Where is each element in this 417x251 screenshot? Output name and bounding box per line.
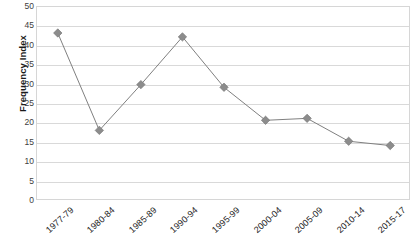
data-point-2005-09: 2005-09: 21.3 <box>303 114 311 122</box>
y-axis-tick-35: 35 <box>8 59 34 69</box>
x-axis-tick-1990-94: 1990-94 <box>168 205 200 235</box>
y-axis-tick-45: 45 <box>8 20 34 30</box>
x-axis-tick-2010-14: 2010-14 <box>335 205 367 235</box>
y-axis-title: Frequency Index <box>17 14 28 134</box>
y-axis-tick-50: 50 <box>8 1 34 11</box>
y-axis-tick-40: 40 <box>8 40 34 50</box>
x-axis-tick-1995-99: 1995-99 <box>210 205 242 235</box>
y-axis-tick-25: 25 <box>8 98 34 108</box>
x-axis-tick-1977-79: 1977-79 <box>44 205 76 235</box>
y-axis-tick-5: 5 <box>8 176 34 186</box>
y-axis-tick-10: 10 <box>8 156 34 166</box>
line-chart: Frequency Index 50454035302520151050 197… <box>0 0 417 251</box>
x-axis-tick-2015-17: 2015-17 <box>376 205 408 235</box>
y-axis-tick-15: 15 <box>8 137 34 147</box>
chart-title <box>40 0 380 3</box>
x-axis-tick-2005-09: 2005-09 <box>293 205 325 235</box>
x-axis-tick-1985-89: 1985-89 <box>127 205 159 235</box>
data-point-2010-14: 2010-14: 15.4 <box>344 137 352 145</box>
y-axis-tick-30: 30 <box>8 79 34 89</box>
series-frequency-index: 1977-79: 43.31980-84: 18.21985-89: 30199… <box>37 7 411 201</box>
y-axis-tick-20: 20 <box>8 117 34 127</box>
series-markers: 1977-79: 43.31980-84: 18.21985-89: 30199… <box>54 29 395 150</box>
x-axis-tick-2000-04: 2000-04 <box>251 205 283 235</box>
plot-area: 1977-79: 43.31980-84: 18.21985-89: 30199… <box>36 6 410 200</box>
y-axis-tick-0: 0 <box>8 195 34 205</box>
x-axis-tick-1980-84: 1980-84 <box>85 205 117 235</box>
data-point-1977-79: 1977-79: 43.3 <box>54 29 62 37</box>
data-point-2015-17: 2015-17: 14.3 <box>386 141 394 149</box>
